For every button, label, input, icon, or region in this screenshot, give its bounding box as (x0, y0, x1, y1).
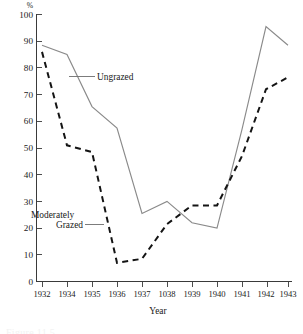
y-tick-label-60: 60 (24, 116, 34, 126)
x-tick-label-1939: 1939 (183, 289, 200, 299)
y-axis-unit-label: % (27, 1, 34, 10)
x-tick-label-1937: 1937 (133, 289, 151, 299)
figure-container: 0 10 20 30 40 50 60 70 80 90 100 % 1932 … (0, 0, 303, 334)
annotation-moderately: Moderately (31, 210, 75, 220)
y-tick-label-90: 90 (24, 36, 34, 46)
x-tick-label-1934: 1934 (58, 289, 76, 299)
y-tick-label-30: 30 (24, 197, 34, 207)
x-tick-label-1038: 1038 (158, 289, 175, 299)
x-axis-title: Year (149, 306, 167, 316)
x-axis-ticks (42, 282, 288, 287)
series-line-ungrazed (42, 27, 288, 229)
y-axis-ticks (37, 15, 42, 282)
annotation-grazed: Grazed (56, 220, 83, 230)
x-tick-label-1936: 1936 (108, 289, 126, 299)
y-tick-label-70: 70 (24, 90, 34, 100)
x-tick-label-1941: 1941 (233, 289, 250, 299)
x-tick-label-1943: 1943 (279, 289, 296, 299)
line-chart: 0 10 20 30 40 50 60 70 80 90 100 % 1932 … (0, 0, 303, 334)
x-tick-label-1935: 1935 (83, 289, 100, 299)
series-line-moderately-grazed (42, 52, 288, 263)
figure-caption: Figure 11.5 (6, 327, 55, 334)
x-tick-label-1940: 1940 (208, 289, 225, 299)
y-tick-label-20: 20 (24, 223, 34, 233)
x-tick-label-1942: 1942 (257, 289, 274, 299)
y-tick-label-0: 0 (28, 277, 33, 287)
y-tick-label-80: 80 (24, 63, 34, 73)
annotation-ungrazed: Ungrazed (97, 72, 134, 82)
y-tick-label-50: 50 (24, 143, 34, 153)
x-tick-label-1932: 1932 (33, 289, 50, 299)
y-tick-label-100: 100 (19, 10, 33, 20)
y-tick-label-40: 40 (24, 170, 34, 180)
y-tick-label-10: 10 (24, 250, 34, 260)
